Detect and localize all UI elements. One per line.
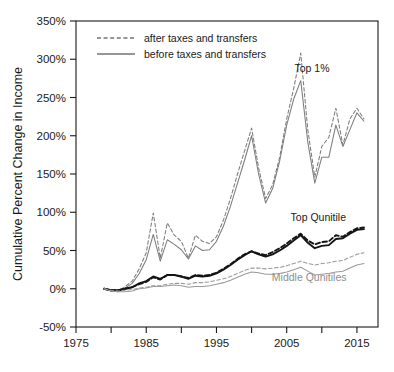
y-tick-label: 0% bbox=[49, 283, 66, 295]
x-tick-label: 1995 bbox=[204, 337, 230, 349]
income-change-line-chart: -50%0%50%100%150%200%250%300%350% 197519… bbox=[0, 0, 394, 372]
series-annotation: Middle Qunitiles bbox=[272, 271, 347, 283]
series-lines bbox=[104, 53, 364, 292]
series-line bbox=[104, 53, 364, 291]
x-axis-ticks: 19751985199520052015 bbox=[63, 327, 370, 349]
legend-label: after taxes and transfers bbox=[144, 32, 257, 44]
y-tick-label: 350% bbox=[37, 15, 66, 27]
x-tick-label: 2015 bbox=[344, 337, 370, 349]
x-tick-label: 1985 bbox=[133, 337, 159, 349]
series-annotation: Top 1% bbox=[294, 62, 329, 74]
chart-legend: after taxes and transfersbefore taxes an… bbox=[97, 32, 266, 60]
y-axis-ticks: -50%0%50%100%150%200%250%300%350% bbox=[37, 15, 76, 333]
y-axis-title: Cumulative Percent Change in Income bbox=[11, 67, 25, 281]
y-tick-label: 100% bbox=[37, 206, 66, 218]
y-tick-label: 150% bbox=[37, 168, 66, 180]
series-annotation: Top Qunitile bbox=[291, 211, 347, 223]
y-tick-label: 300% bbox=[37, 53, 66, 65]
y-tick-label: 250% bbox=[37, 92, 66, 104]
x-tick-label: 2005 bbox=[274, 337, 300, 349]
y-tick-label: 200% bbox=[37, 130, 66, 142]
y-tick-label: 50% bbox=[43, 245, 66, 257]
x-tick-label: 1975 bbox=[63, 337, 89, 349]
legend-label: before taxes and transfers bbox=[144, 48, 266, 60]
series-annotations: Top 1%Top QunitileMiddle Qunitiles bbox=[272, 62, 347, 283]
y-tick-label: -50% bbox=[39, 321, 66, 333]
chart-container: -50%0%50%100%150%200%250%300%350% 197519… bbox=[0, 0, 394, 372]
